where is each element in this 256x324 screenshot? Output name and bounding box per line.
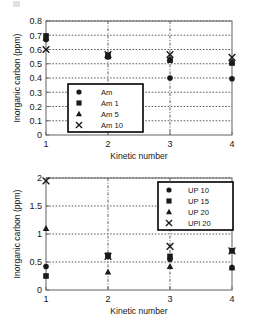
chart-panel-up: 00.511.521234Kinetic numberInorganic car… bbox=[0, 164, 256, 322]
legend-label: UP 15 bbox=[188, 197, 209, 206]
y-axis-label: Inorganic carbon (ppm) bbox=[12, 33, 22, 122]
x-tick-label: 4 bbox=[229, 294, 234, 304]
x-axis-label: Kinetic number bbox=[110, 306, 167, 316]
y-axis-label: Inorganic carbon (ppm) bbox=[12, 189, 22, 278]
y-tick-label: 0.4 bbox=[29, 73, 42, 83]
x-tick-label: 4 bbox=[229, 139, 234, 149]
figure-page: 00.10.20.30.40.50.60.70.81234Kinetic num… bbox=[0, 0, 256, 324]
legend-label: UP 10 bbox=[188, 186, 209, 195]
data-point-triangle bbox=[167, 263, 174, 269]
x-tick-label: 3 bbox=[167, 294, 172, 304]
y-tick-label: 0.5 bbox=[29, 59, 42, 69]
legend-label: Am bbox=[101, 88, 112, 97]
legend-label: Am 5 bbox=[101, 110, 119, 119]
x-axis-label: Kinetic number bbox=[110, 151, 167, 161]
y-tick-label: 0 bbox=[37, 130, 42, 140]
legend-marker-square bbox=[76, 100, 81, 105]
y-tick-label: 2 bbox=[37, 173, 42, 183]
y-tick-label: 0.8 bbox=[29, 16, 42, 26]
x-tick-label: 1 bbox=[43, 139, 48, 149]
y-tick-label: 0.5 bbox=[29, 257, 42, 267]
y-tick-label: 1 bbox=[37, 229, 42, 239]
x-tick-label: 2 bbox=[105, 139, 110, 149]
chart-panel-am: 00.10.20.30.40.50.60.70.81234Kinetic num… bbox=[0, 8, 256, 163]
data-point-circle bbox=[43, 264, 49, 270]
y-tick-label: 0 bbox=[37, 285, 42, 295]
y-tick-label: 0.1 bbox=[29, 116, 42, 126]
y-tick-label: 0.3 bbox=[29, 88, 42, 98]
data-point-square bbox=[43, 273, 49, 279]
y-tick-label: 0.2 bbox=[29, 102, 42, 112]
y-tick-label: 0.6 bbox=[29, 45, 42, 55]
y-tick-label: 0.7 bbox=[29, 31, 42, 41]
data-point-triangle bbox=[105, 269, 112, 275]
data-point-triangle bbox=[43, 225, 50, 231]
legend-label: UPl 20 bbox=[188, 219, 211, 228]
x-tick-label: 2 bbox=[105, 294, 110, 304]
y-tick-label: 1.5 bbox=[29, 201, 42, 211]
legend-marker-circle bbox=[166, 187, 171, 192]
legend-label: Am 10 bbox=[101, 121, 123, 130]
x-tick-label: 3 bbox=[167, 139, 172, 149]
data-point-circle bbox=[167, 75, 173, 81]
legend-label: UP 20 bbox=[188, 208, 209, 217]
inorganic-carbon-up-chart: 00.511.521234Kinetic numberInorganic car… bbox=[0, 164, 256, 322]
legend-marker-square bbox=[166, 198, 171, 203]
x-tick-label: 1 bbox=[43, 294, 48, 304]
data-point-circle bbox=[229, 76, 235, 82]
scan-artifact bbox=[13, 1, 20, 7]
legend-label: Am 1 bbox=[101, 99, 119, 108]
legend-marker-circle bbox=[76, 89, 81, 94]
inorganic-carbon-am-chart: 00.10.20.30.40.50.60.70.81234Kinetic num… bbox=[0, 8, 256, 163]
data-point-square bbox=[167, 254, 173, 260]
